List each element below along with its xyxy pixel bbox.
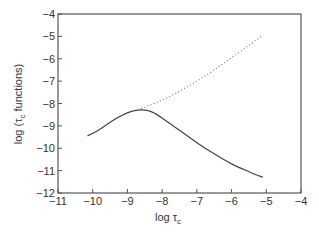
x-axis-ticks: −11−10−9−8−7−6−5−4 [49, 189, 307, 207]
x-tick-label: −4 [295, 195, 308, 207]
x-tick-label: −5 [260, 195, 273, 207]
y-tick-label: −7 [42, 75, 55, 87]
series-group [88, 35, 263, 177]
y-tick-label: −9 [42, 120, 55, 132]
x-tick-label: −10 [83, 195, 102, 207]
x-tick-label: −9 [121, 195, 134, 207]
y-tick-label: −11 [37, 165, 55, 177]
plot-frame [58, 14, 301, 193]
x-tick-label: −8 [156, 195, 169, 207]
y-tick-label: −5 [42, 30, 55, 42]
y-tick-label: −6 [42, 53, 55, 65]
y-tick-label: −12 [36, 187, 55, 199]
y-tick-label: −4 [42, 8, 55, 20]
y-tick-label: −8 [42, 98, 55, 110]
series-line-solid [88, 110, 263, 178]
chart: −11−10−9−8−7−6−5−4 −4−5−6−7−8−9−10−11−12… [0, 0, 319, 236]
y-axis-label: log (τc functions) [12, 64, 27, 145]
y-tick-label: −10 [36, 142, 55, 154]
y-axis-ticks: −4−5−6−7−8−9−10−11−12 [36, 8, 62, 199]
x-tick-label: −6 [225, 195, 238, 207]
x-axis-label: log τc [155, 211, 181, 226]
x-tick-label: −7 [191, 195, 204, 207]
series-line-dotted [138, 35, 263, 110]
plot-area [58, 14, 301, 193]
